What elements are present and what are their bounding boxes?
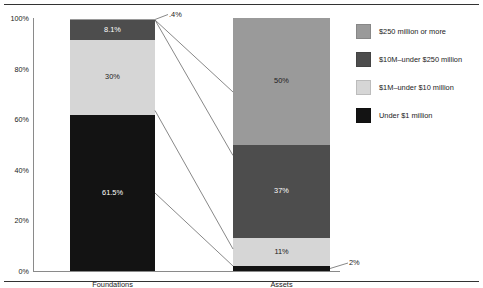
- legend-label-250m-or-more: $250 million or more: [379, 27, 446, 36]
- top-rule: [4, 4, 479, 5]
- x-label-assets: Assets: [233, 280, 330, 288]
- segment-label-assets-1m-10m: 11%: [233, 248, 330, 255]
- legend-item-250m-or-more[interactable]: $250 million or more: [356, 20, 480, 42]
- y-axis-line: [33, 18, 34, 271]
- segment-assets-under-1m[interactable]: [233, 266, 330, 271]
- chart-legend: $250 million or more $10M–under $250 mil…: [356, 20, 480, 132]
- segment-foundations-1m-10m[interactable]: 30%: [70, 40, 155, 116]
- segment-label-assets-250m-or-more: 50%: [233, 78, 330, 85]
- segment-label-foundations-under-1m: 61.5%: [70, 190, 155, 197]
- segment-foundations-under-1m[interactable]: 61.5%: [70, 115, 155, 271]
- y-tick-60: 60%: [15, 115, 29, 124]
- legend-swatch-icon-250m-or-more: [356, 24, 371, 39]
- segment-foundations-10m-250m[interactable]: 8.1%: [70, 20, 155, 41]
- x-axis-line: [33, 271, 340, 272]
- segment-assets-250m-or-more[interactable]: 50%: [233, 18, 330, 145]
- callout-foundations-250m-or-more: .4%: [169, 10, 182, 19]
- legend-swatch-icon-1m-10m: [356, 80, 371, 95]
- legend-item-under-1m[interactable]: Under $1 million: [356, 104, 480, 126]
- x-label-foundations: Foundations: [70, 280, 155, 288]
- legend-label-1m-10m: $1M–under $10 million: [379, 83, 454, 92]
- y-tick-100: 100%: [11, 14, 29, 23]
- legend-label-under-1m: Under $1 million: [379, 111, 432, 120]
- y-tick-80: 80%: [15, 64, 29, 73]
- legend-item-1m-10m[interactable]: $1M–under $10 million: [356, 76, 480, 98]
- y-tick-40: 40%: [15, 165, 29, 174]
- segment-label-foundations-1m-10m: 30%: [70, 74, 155, 81]
- legend-swatch-icon-10m-250m: [356, 52, 371, 67]
- callout-assets-under-1m: 2%: [349, 258, 360, 267]
- bar-foundations[interactable]: 8.1% 30% 61.5%: [70, 18, 155, 271]
- legend-swatch-icon-under-1m: [356, 108, 371, 123]
- segment-label-assets-10m-250m: 37%: [233, 188, 330, 195]
- segment-assets-1m-10m[interactable]: 11%: [233, 238, 330, 266]
- legend-item-10m-250m[interactable]: $10M–under $250 million: [356, 48, 480, 70]
- segment-assets-10m-250m[interactable]: 37%: [233, 145, 330, 239]
- chart-figure: 100% 80% 60% 40% 20% 0% 8.1% 30% 61.5% 5…: [0, 0, 483, 288]
- segment-label-foundations-10m-250m: 8.1%: [70, 27, 155, 34]
- plot-area: 100% 80% 60% 40% 20% 0% 8.1% 30% 61.5% 5…: [33, 18, 340, 271]
- y-tick-0: 0%: [19, 267, 29, 276]
- legend-label-10m-250m: $10M–under $250 million: [379, 55, 462, 64]
- y-tick-20: 20%: [15, 216, 29, 225]
- bar-assets[interactable]: 50% 37% 11%: [233, 18, 330, 271]
